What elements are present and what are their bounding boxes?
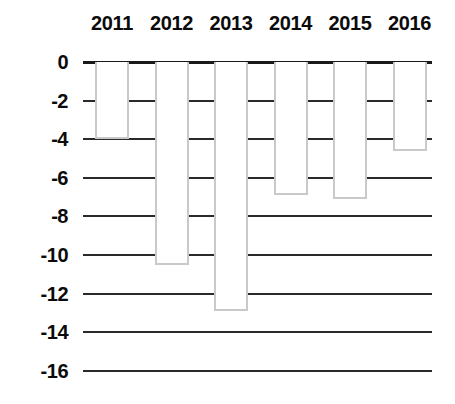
y-tick-label: 0 [57,51,68,74]
y-tick-label: -4 [51,128,68,151]
bar-2014[interactable] [274,62,308,195]
y-tick-label: -2 [51,89,68,112]
bar-2016[interactable] [393,62,427,151]
y-tick-label: -16 [41,359,68,382]
y-tick-label: -14 [41,321,68,344]
bar-2011[interactable] [95,62,129,139]
y-tick-label: -8 [51,205,68,228]
y-tick-label: -12 [41,282,68,305]
bar-2012[interactable] [155,62,189,265]
bar-series [83,0,432,404]
y-tick-label: -10 [41,244,68,267]
bar-2015[interactable] [333,62,367,199]
bar-2013[interactable] [214,62,248,311]
y-tick-label: -6 [51,166,68,189]
bar-chart: 201120122013201420152016 0-2-4-6-8-10-12… [0,0,455,404]
y-axis-tick-labels: 0-2-4-6-8-10-12-14-16 [0,0,78,404]
plot-area [83,0,432,404]
